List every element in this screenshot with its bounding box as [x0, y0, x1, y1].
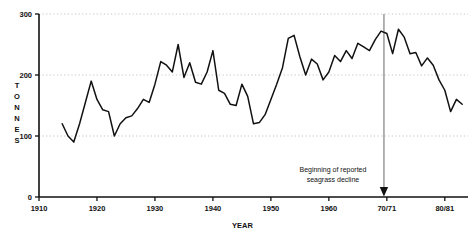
x-tick-label: 1910 [31, 204, 48, 213]
y-axis-title-letter: S [14, 136, 19, 145]
y-axis-title-letter: O [14, 92, 20, 101]
x-axis-title: YEAR [232, 221, 253, 230]
annotation-text-line2: seagrass decline [307, 176, 360, 184]
y-axis-title-letter: N [14, 103, 19, 112]
x-tick-label: 1920 [89, 204, 106, 213]
line-chart-svg: 0100200300 19101920193019401950196070/71… [0, 0, 472, 243]
x-tick-label: 1950 [263, 204, 280, 213]
x-tick-label: 1940 [205, 204, 222, 213]
y-axis-title-letter: N [14, 114, 19, 123]
x-tick-label: 80/81 [435, 204, 454, 213]
y-axis-title: TONNES [14, 81, 20, 145]
y-tick-label: 100 [19, 132, 32, 141]
annotation-text-line1: Beginning of reported [299, 166, 366, 174]
y-axis-title-letter: E [14, 125, 19, 134]
annotation-arrowhead-icon [380, 187, 388, 197]
x-tick-group: 19101920193019401950196070/7180/81 [31, 197, 455, 213]
chart-figure: 0100200300 19101920193019401950196070/71… [0, 0, 472, 243]
x-tick-label: 70/71 [377, 204, 396, 213]
x-tick-label: 1930 [147, 204, 164, 213]
gridlines-group [39, 14, 468, 136]
x-tick-label: 1960 [321, 204, 338, 213]
y-tick-label: 0 [28, 193, 32, 202]
y-tick-label: 200 [19, 71, 32, 80]
y-axis-title-letter: T [15, 81, 20, 90]
data-series-line [62, 29, 462, 142]
y-tick-group: 0100200300 [19, 10, 39, 202]
y-tick-label: 300 [19, 10, 32, 19]
